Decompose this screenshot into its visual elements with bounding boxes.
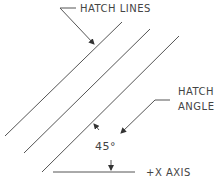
x-axis-label: +X AXIS — [146, 167, 191, 178]
hatch-lines-label: HATCH LINES — [80, 3, 151, 14]
hatch-angle-leader — [121, 100, 170, 133]
hatch-angle-label-line2: ANGLE — [178, 101, 214, 112]
hatch-angle-label-line1: HATCH — [178, 86, 214, 97]
angle-arrow-icon — [94, 124, 99, 130]
hatch-line-1 — [5, 22, 122, 136]
hatch-diagram: HATCH LINES HATCH ANGLE 45° +X AXIS — [0, 0, 218, 183]
hatch-line-2 — [24, 29, 150, 153]
angle-value-label: 45° — [95, 140, 116, 153]
